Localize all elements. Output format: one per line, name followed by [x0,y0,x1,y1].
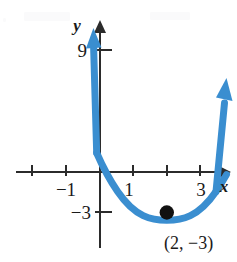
x-axis-label: x [219,177,229,196]
x-axis [16,166,231,178]
y-axis-label: y [71,16,81,35]
parabola-curve [86,28,233,220]
graph-figure: y x 9 −3 −1 1 3 (2, −3) [0,0,237,262]
y-tick-label-neg3: −3 [71,202,91,223]
x-tick-label-3: 3 [196,179,206,200]
vertex-marker [160,205,174,219]
x-axis-ticks [32,165,200,176]
scan-artifact [24,12,70,21]
coordinate-plane: y x 9 −3 −1 1 3 (2, −3) [0,0,237,262]
parabola-right-arrowhead [216,78,233,101]
x-tick-label-neg1: −1 [56,179,76,200]
parabola-left-branch [94,47,97,154]
y-axis-arrowhead [94,20,106,33]
x-tick-label-1: 1 [124,179,134,200]
scan-artifact [150,12,190,20]
vertex-point-label: (2, −3) [164,233,213,254]
y-tick-label-9: 9 [78,40,88,61]
scan-artifact [3,18,6,22]
